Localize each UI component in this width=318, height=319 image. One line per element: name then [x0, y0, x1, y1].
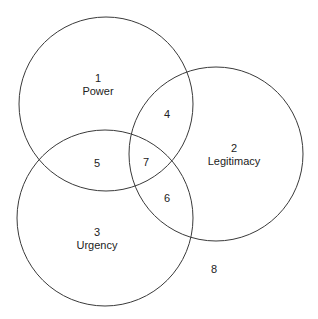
region-6-label: 6	[164, 192, 170, 205]
region-8-label: 8	[211, 263, 217, 276]
region-4-label: 4	[164, 108, 170, 121]
circle-urgency	[17, 130, 193, 306]
region-7-label: 7	[143, 156, 149, 169]
region-1-number: 1	[82, 72, 113, 85]
region-3-number: 3	[77, 226, 118, 239]
region-3-name: Urgency	[77, 239, 118, 252]
venn-diagram	[0, 0, 318, 319]
region-2-name: Legitimacy	[208, 155, 261, 168]
region-1-label: 1 Power	[82, 72, 113, 98]
region-2-number: 2	[208, 142, 261, 155]
region-2-label: 2 Legitimacy	[208, 142, 261, 168]
region-3-label: 3 Urgency	[77, 226, 118, 252]
region-1-name: Power	[82, 85, 113, 98]
circle-power	[19, 17, 193, 191]
region-5-label: 5	[94, 157, 100, 170]
